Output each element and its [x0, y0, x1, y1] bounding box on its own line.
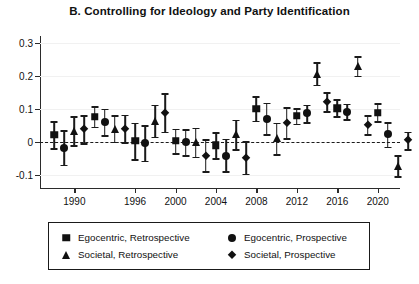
error-bar-cap [142, 125, 149, 127]
triangle-marker-icon [61, 250, 71, 260]
y-tick [35, 76, 40, 77]
error-bar-cap [354, 76, 361, 78]
chart-figure: B. Controlling for Ideology and Party Id… [0, 0, 419, 284]
error-bar-cap [91, 106, 98, 108]
y-tick-label: 0 [0, 136, 33, 147]
error-bar-cap [303, 122, 310, 124]
data-point-diamond [363, 121, 372, 130]
error-bar-cap [71, 116, 78, 118]
error-bar-cap [344, 119, 351, 121]
data-point-triangle [394, 162, 402, 170]
error-bar-cap [405, 132, 412, 134]
legend-item: Societal, Retrospective [61, 249, 178, 260]
y-tick [35, 175, 40, 176]
x-tick [378, 188, 379, 193]
error-bar-cap [314, 85, 321, 87]
error-bar-cap [405, 149, 412, 151]
error-bar-cap [273, 154, 280, 156]
error-bar-cap [212, 132, 219, 134]
x-tick [297, 188, 298, 193]
y-tick-label: 0.1 [0, 103, 33, 114]
x-tick-label: 2000 [164, 196, 186, 207]
error-bar-cap [334, 116, 341, 118]
gridline [40, 43, 400, 44]
error-bar-cap [132, 159, 139, 161]
legend-label: Egocentric, Prospective [244, 232, 347, 243]
error-bar-cap [192, 157, 199, 159]
error-bar-cap [243, 141, 250, 143]
error-bar-cap [182, 129, 189, 131]
error-bar-cap [71, 145, 78, 147]
error-bar-cap [132, 123, 139, 125]
error-bar-cap [283, 138, 290, 140]
error-bar-cap [111, 115, 118, 117]
error-bar-cap [324, 92, 331, 94]
data-point-square [374, 109, 382, 117]
error-bar-cap [364, 115, 371, 117]
data-point-diamond [121, 124, 130, 133]
y-tick-label: 0.2 [0, 70, 33, 81]
error-bar-cap [223, 171, 230, 173]
error-bar-cap [283, 107, 290, 109]
data-point-square [131, 137, 139, 145]
x-tick-label: 1996 [124, 196, 146, 207]
x-tick [176, 188, 177, 193]
data-point-diamond [404, 136, 413, 145]
error-bar-cap [51, 148, 58, 150]
legend-item: Egocentric, Prospective [227, 232, 347, 243]
error-bar-cap [91, 127, 98, 129]
y-tick [35, 109, 40, 110]
data-point-diamond [80, 125, 89, 134]
y-tick-label: 0.3 [0, 37, 33, 48]
data-point-diamond [323, 98, 332, 107]
error-bar-cap [253, 96, 260, 98]
zero-line [40, 142, 400, 143]
circle-marker-icon [227, 233, 237, 243]
square-marker-icon [61, 233, 71, 243]
error-bar-cap [223, 139, 230, 141]
plot-area: 0.30.20.10-0.119901996200020042008201220… [40, 36, 400, 188]
x-tick [216, 188, 217, 193]
error-bar-cap [314, 62, 321, 64]
legend-label: Societal, Prospective [244, 249, 335, 260]
x-tick-label: 2008 [245, 196, 267, 207]
error-bar-cap [263, 103, 270, 105]
data-point-square [253, 105, 261, 113]
x-tick-label: 1990 [63, 196, 85, 207]
chart-title: B. Controlling for Ideology and Party Id… [0, 5, 419, 17]
legend-item: Societal, Prospective [227, 249, 335, 260]
error-bar-cap [51, 121, 58, 123]
y-axis-line [40, 36, 41, 188]
error-bar-cap [172, 129, 179, 131]
diamond-marker-icon [227, 250, 237, 260]
error-bar-cap [111, 142, 118, 144]
y-tick [35, 43, 40, 44]
data-point-triangle [273, 134, 281, 142]
legend-item: Egocentric, Retrospective [61, 232, 190, 243]
error-bar-cap [142, 161, 149, 163]
data-point-circle [182, 138, 190, 146]
data-point-circle [60, 144, 68, 152]
legend-label: Egocentric, Retrospective [78, 232, 190, 243]
data-point-diamond [242, 153, 251, 162]
error-bar-cap [374, 103, 381, 105]
data-point-square [172, 137, 180, 145]
x-tick [135, 188, 136, 193]
error-bar-cap [293, 124, 300, 126]
data-point-circle [101, 118, 109, 126]
error-bar-cap [162, 132, 169, 134]
error-bar-cap [394, 176, 401, 178]
error-bar-cap [172, 153, 179, 155]
data-point-square [334, 104, 342, 112]
data-point-triangle [70, 127, 78, 135]
error-bar-cap [324, 111, 331, 113]
x-tick-label: 2004 [205, 196, 227, 207]
error-bar-cap [334, 99, 341, 101]
error-bar-cap [101, 109, 108, 111]
gridline [40, 76, 400, 77]
error-bar-cap [233, 149, 240, 151]
error-bar-cap [243, 174, 250, 176]
data-point-square [293, 112, 301, 120]
x-tick [74, 188, 75, 193]
data-point-square [91, 113, 99, 121]
